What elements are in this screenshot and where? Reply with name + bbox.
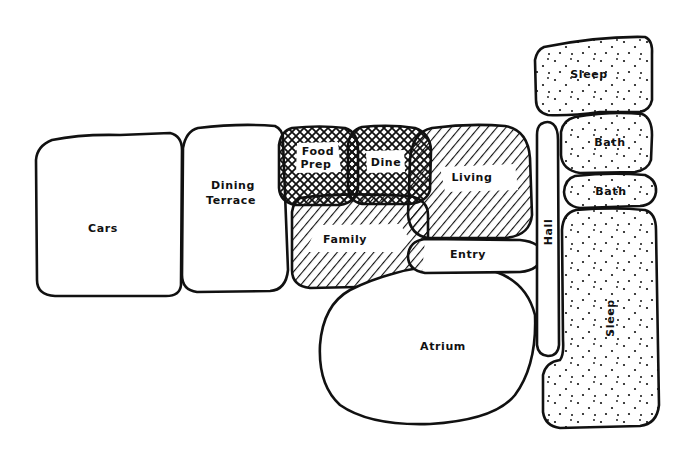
space-entry: Entry [408, 239, 542, 273]
label-food: Food [302, 145, 334, 158]
label-entry: Entry [450, 248, 486, 261]
label-living: Living [451, 171, 492, 184]
space-dine: Dine [348, 126, 431, 204]
space-atrium: Atrium [320, 266, 535, 424]
space-bath-2: Bath [564, 174, 656, 208]
space-sleep-bottom: Sleep [543, 209, 659, 429]
space-food-prep: Food Prep [279, 127, 358, 206]
label-sleep-bottom: Sleep [604, 299, 617, 337]
label-family: Family [323, 233, 367, 246]
label-sleep-top: Sleep [570, 68, 608, 81]
space-hall: Hall [537, 122, 559, 356]
label-hall: Hall [542, 219, 555, 246]
space-cars: Cars [36, 133, 182, 296]
label-dining: Dining [211, 179, 255, 192]
space-sleep-top: Sleep [535, 37, 652, 115]
label-bath-2: Bath [595, 185, 626, 198]
label-prep: Prep [300, 158, 331, 171]
label-cars: Cars [88, 222, 118, 235]
space-dining-terrace: Dining Terrace [182, 125, 288, 292]
bubble-diagram: Cars Dining Terrace Family Living Food P… [0, 0, 686, 457]
label-atrium: Atrium [420, 340, 466, 353]
label-dine: Dine [371, 156, 402, 169]
label-bath-1: Bath [594, 136, 625, 149]
label-terrace: Terrace [206, 194, 256, 207]
space-bath-1: Bath [561, 113, 652, 173]
